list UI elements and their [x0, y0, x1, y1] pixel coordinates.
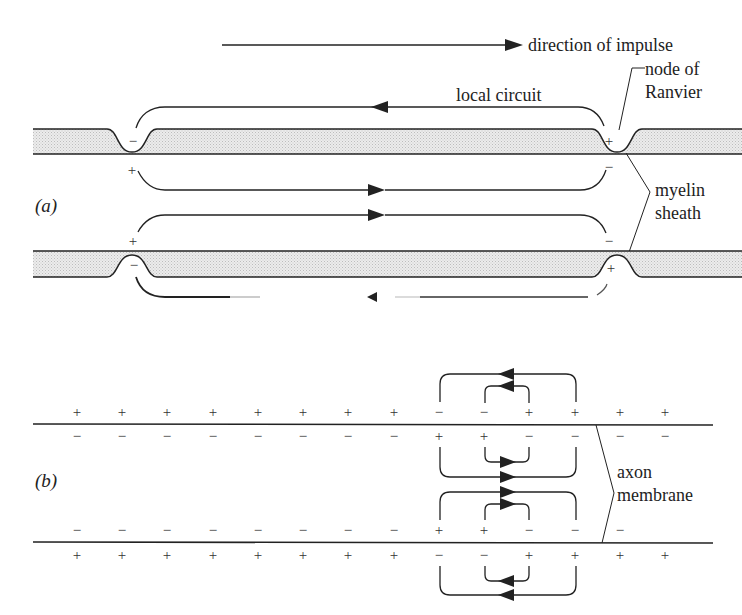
node-of-ranvier-label-1: node of — [645, 59, 699, 79]
svg-text:+: + — [661, 547, 669, 563]
svg-text:−: − — [435, 547, 443, 563]
svg-text:+: + — [616, 404, 624, 420]
svg-text:+: + — [299, 547, 307, 563]
svg-text:+: + — [435, 428, 443, 444]
upper-myelin-sheath — [33, 129, 742, 154]
svg-text:+: + — [571, 404, 579, 420]
svg-text:−: − — [299, 428, 307, 444]
svg-text:+: + — [73, 404, 81, 420]
upper-left-below-charge: + — [128, 162, 136, 178]
svg-text:+: + — [616, 547, 624, 563]
myelin-sheath-pointer — [626, 153, 650, 258]
current-arrowheads — [498, 368, 516, 601]
svg-text:−: − — [118, 522, 126, 538]
svg-text:−: − — [661, 428, 669, 444]
svg-text:−: − — [390, 522, 398, 538]
local-circuit-label: local circuit — [456, 85, 541, 105]
svg-text:−: − — [209, 522, 217, 538]
svg-text:+: + — [73, 547, 81, 563]
current-loops — [440, 374, 576, 595]
panel-a: direction of impulse − + + − local circu… — [33, 35, 742, 302]
svg-text:−: − — [525, 522, 533, 538]
svg-text:+: + — [661, 404, 669, 420]
panel-b: (b) + + + + + + + + − − + + + + − − − − … — [33, 368, 713, 601]
svg-text:−: − — [73, 428, 81, 444]
upper-local-circuit-top — [136, 101, 604, 128]
lower-left-node-charge: − — [130, 257, 138, 273]
top-inside-charges: − − − − − − − − + + − − − − — [73, 428, 669, 444]
panel-b-label: (b) — [35, 470, 57, 492]
lower-myelin-sheath — [33, 251, 742, 277]
axon-membrane-pointer — [596, 425, 614, 543]
direction-arrow — [222, 39, 523, 51]
svg-text:+: + — [118, 547, 126, 563]
svg-text:+: + — [480, 428, 488, 444]
lower-local-circuit-bottom — [136, 277, 607, 302]
lower-left-above-charge: + — [129, 233, 137, 249]
svg-text:+: + — [344, 404, 352, 420]
svg-text:−: − — [571, 428, 579, 444]
myelin-sheath-label-2: sheath — [655, 203, 701, 223]
svg-text:−: − — [390, 428, 398, 444]
node-of-ranvier-pointer — [619, 68, 645, 130]
svg-text:−: − — [73, 522, 81, 538]
svg-text:−: − — [616, 522, 624, 538]
svg-text:+: + — [390, 547, 398, 563]
upper-local-circuit-bottom — [138, 170, 606, 196]
svg-text:−: − — [299, 522, 307, 538]
bottom-outside-charges: + + + + + + + + − − + + + + — [73, 547, 669, 563]
svg-text:+: + — [163, 547, 171, 563]
svg-text:−: − — [571, 522, 579, 538]
svg-text:+: + — [254, 547, 262, 563]
lower-local-circuit-top — [138, 209, 606, 233]
svg-text:−: − — [435, 404, 443, 420]
diagram-canvas: direction of impulse − + + − local circu… — [0, 0, 742, 615]
svg-text:+: + — [209, 404, 217, 420]
panel-a-label: (a) — [35, 195, 57, 217]
svg-text:−: − — [209, 428, 217, 444]
svg-text:−: − — [344, 522, 352, 538]
direction-of-impulse-label: direction of impulse — [528, 35, 673, 55]
upper-right-node-charge: + — [605, 133, 613, 149]
svg-text:+: + — [525, 547, 533, 563]
svg-text:+: + — [344, 547, 352, 563]
svg-text:+: + — [209, 547, 217, 563]
svg-text:+: + — [571, 547, 579, 563]
svg-text:+: + — [163, 404, 171, 420]
bottom-axon-membrane — [33, 542, 713, 543]
svg-text:−: − — [344, 428, 352, 444]
svg-text:−: − — [163, 522, 171, 538]
bottom-inside-charges: − − − − − − − − + + − − − — [73, 522, 624, 538]
myelin-sheath-label-1: myelin — [655, 180, 705, 200]
upper-left-node-charge: − — [129, 133, 137, 149]
axon-membrane-label-1: axon — [617, 462, 652, 482]
svg-text:−: − — [480, 547, 488, 563]
svg-text:−: − — [254, 428, 262, 444]
svg-text:+: + — [390, 404, 398, 420]
svg-text:−: − — [480, 404, 488, 420]
lower-right-above-charge: − — [605, 233, 613, 249]
upper-right-below-charge: − — [605, 159, 613, 175]
axon-membrane-label-2: membrane — [617, 485, 693, 505]
svg-text:−: − — [254, 522, 262, 538]
svg-text:+: + — [525, 404, 533, 420]
top-outside-charges: + + + + + + + + − − + + + + — [73, 404, 669, 420]
svg-text:+: + — [299, 404, 307, 420]
svg-text:+: + — [480, 522, 488, 538]
svg-text:−: − — [525, 428, 533, 444]
svg-text:−: − — [163, 428, 171, 444]
svg-text:+: + — [435, 522, 443, 538]
top-axon-membrane — [33, 424, 713, 425]
svg-text:+: + — [118, 404, 126, 420]
node-of-ranvier-label-2: Ranvier — [645, 82, 702, 102]
svg-text:−: − — [616, 428, 624, 444]
svg-text:+: + — [254, 404, 262, 420]
svg-text:−: − — [118, 428, 126, 444]
lower-right-node-charge: + — [607, 260, 615, 276]
